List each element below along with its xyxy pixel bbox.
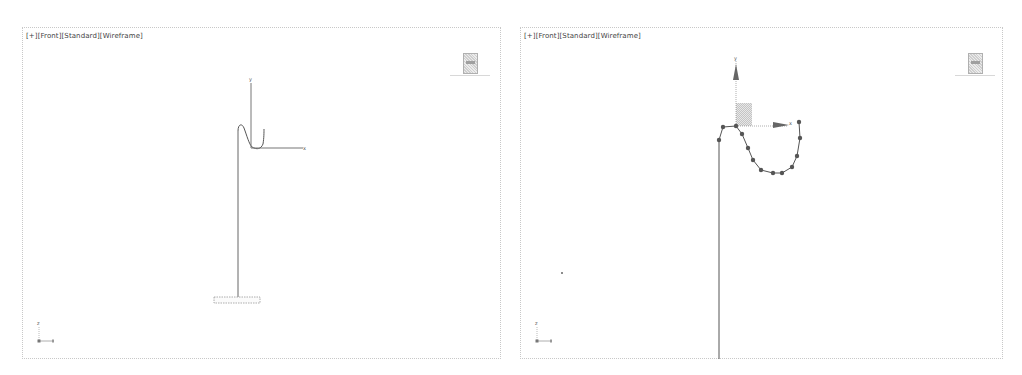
gizmo-x-arrow-icon (773, 122, 789, 128)
tripod-z-label: z (37, 320, 40, 326)
scene-geometry: y x z (521, 28, 1004, 360)
viewport-front-right[interactable]: [+][Front][Standard][Wireframe] y x (520, 27, 1003, 359)
vertex-point (721, 125, 725, 129)
tripod-z-label: z (535, 320, 538, 326)
gizmo-x-label: x (789, 120, 792, 126)
vertex-point (746, 146, 750, 150)
gizmo-y-label: y (734, 55, 737, 62)
vertex-point (740, 132, 744, 136)
tripod-origin-icon (38, 340, 41, 343)
vertex-point (734, 124, 738, 128)
tripod-x-end-icon (52, 340, 54, 343)
gizmo-y-arrow-icon (733, 64, 739, 80)
base-plate (214, 297, 260, 303)
vertex-point (717, 138, 721, 142)
gizmo-x-label: x (303, 145, 306, 151)
vertex-point (751, 158, 755, 162)
viewport-front-left[interactable]: [+][Front][Standard][Wireframe] y x z (22, 27, 501, 359)
vertex-point (798, 136, 802, 140)
vertex-point (797, 120, 801, 124)
spline-vertices (717, 120, 802, 175)
tripod-origin-icon (536, 340, 539, 343)
gizmo-y-label: y (249, 76, 252, 83)
spline-curve (719, 122, 800, 173)
gizmo-xy-plane-handle (736, 103, 752, 126)
vertex-point (795, 154, 799, 158)
tripod-x-end-icon (550, 340, 552, 343)
vertex-point (759, 168, 763, 172)
vertex-point (771, 171, 775, 175)
scene-geometry: y x z (23, 28, 502, 360)
vertex-point (790, 165, 794, 169)
stray-point (561, 272, 563, 274)
vertex-point (780, 171, 784, 175)
